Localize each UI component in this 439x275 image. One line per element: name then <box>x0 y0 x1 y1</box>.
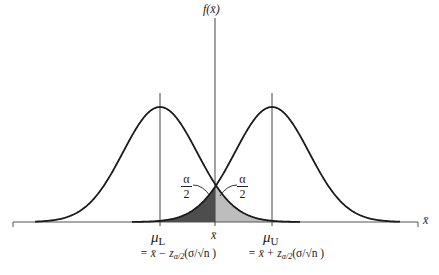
mu-subscript: U <box>271 235 279 247</box>
mu-subscript: L <box>159 235 166 247</box>
dark-shaded-region <box>132 187 215 222</box>
light-shaded-region <box>215 184 300 222</box>
alpha-half-left: α 2 <box>181 173 192 200</box>
alpha-denominator: 2 <box>240 188 246 200</box>
alpha-numerator: α <box>183 173 189 185</box>
y-axis-label: f(x̄) <box>203 2 220 17</box>
mu-symbol: μ <box>151 229 159 245</box>
formula-main: = x̄ − z <box>140 247 174 259</box>
mu-lower-label: μL <box>151 228 165 247</box>
alpha-numerator: α <box>239 173 245 185</box>
lower-distribution-curve <box>35 107 300 222</box>
formula-subscript: α/2 <box>174 252 184 261</box>
alpha-left-leader <box>193 185 210 196</box>
mu-lower-formula: = x̄ − zα/2(σ/√n ) <box>140 247 216 261</box>
upper-distribution-curve <box>132 107 400 222</box>
formula-tail: (σ/√n ) <box>184 247 216 259</box>
alpha-denominator: 2 <box>184 188 190 200</box>
formula-subscript: α/2 <box>282 252 292 261</box>
formula-tail: (σ/√n ) <box>292 247 324 259</box>
mu-upper-label: μU <box>263 228 278 247</box>
mu-upper-formula: = x̄ + zα/2(σ/√n ) <box>248 247 324 261</box>
formula-main: = x̄ + z <box>248 247 282 259</box>
alpha-half-right: α 2 <box>237 173 248 200</box>
xbar-label: x̄ <box>211 228 216 243</box>
diagram-canvas <box>0 0 439 275</box>
x-axis-label: x̄ <box>423 213 428 228</box>
mu-symbol: μ <box>263 229 271 245</box>
